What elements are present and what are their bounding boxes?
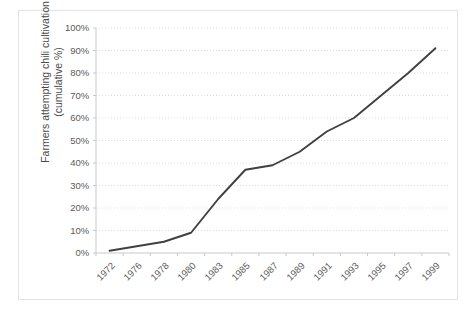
y-tick-label: 10% (55, 225, 89, 236)
y-tick-label: 40% (55, 157, 89, 168)
y-tick-label: 90% (55, 45, 89, 56)
gridlines-group (96, 28, 449, 231)
y-tick-label: 50% (55, 135, 89, 146)
x-tick-marks-group (93, 28, 449, 256)
y-tick-label: 70% (55, 90, 89, 101)
y-tick-label: 0% (55, 247, 89, 258)
y-tick-label: 60% (55, 112, 89, 123)
y-tick-label: 80% (55, 67, 89, 78)
data-series-line (110, 48, 436, 251)
y-tick-label: 30% (55, 180, 89, 191)
y-tick-label: 20% (55, 202, 89, 213)
y-tick-label: 100% (55, 22, 89, 33)
